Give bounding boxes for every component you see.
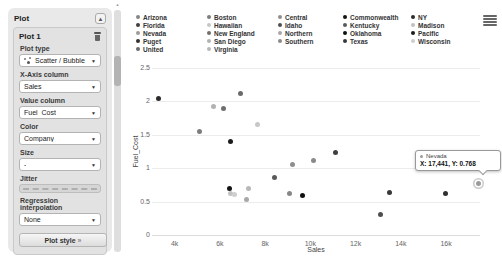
- data-point-Central[interactable]: [290, 162, 295, 167]
- legend-dot: [207, 39, 211, 43]
- legend-item[interactable]: Wisconsin: [411, 37, 450, 45]
- regression-select[interactable]: None ▼: [19, 213, 101, 226]
- legend-item[interactable]: Puget: [136, 37, 167, 45]
- legend-item[interactable]: United: [136, 45, 167, 53]
- data-point-Wisconsin[interactable]: [232, 192, 237, 197]
- legend-label: Idaho: [285, 22, 302, 29]
- plot-style-button[interactable]: Plot style »: [19, 233, 107, 247]
- plot-style-button-label: Plot style: [44, 237, 75, 244]
- legend-item[interactable]: New England: [207, 29, 255, 37]
- legend-dot: [343, 31, 347, 35]
- legend-dot: [411, 15, 415, 19]
- legend-label: Northern: [285, 30, 312, 37]
- data-point-Kentucky[interactable]: [272, 175, 277, 180]
- data-point-Nevada[interactable]: [476, 181, 481, 186]
- data-point-Virginia[interactable]: [246, 186, 251, 191]
- scrollbar-thumb[interactable]: [114, 56, 121, 86]
- data-point-New England[interactable]: [221, 106, 226, 111]
- chart-menu-icon[interactable]: [483, 15, 497, 26]
- size-select[interactable]: - ▼: [19, 158, 101, 171]
- data-point-San Diego[interactable]: [211, 104, 216, 109]
- data-point-United[interactable]: [238, 91, 243, 96]
- legend-dot: [136, 23, 140, 27]
- plot-type-select[interactable]: Scatter / Bubble ▼: [19, 54, 101, 67]
- legend-item[interactable]: Commonwealth: [343, 13, 398, 21]
- legend-item[interactable]: San Diego: [207, 37, 255, 45]
- data-point-Idaho[interactable]: [378, 212, 383, 217]
- legend-item[interactable]: Arizona: [136, 13, 167, 21]
- tooltip-series-label: Nevada: [426, 153, 447, 159]
- data-point-Pacific[interactable]: [228, 139, 233, 144]
- legend-dot: [411, 39, 415, 43]
- collapse-panel-icon[interactable]: ▲: [95, 13, 106, 24]
- legend-label: Arizona: [143, 14, 167, 21]
- legend-item[interactable]: Central: [278, 13, 314, 21]
- jitter-label: Jitter: [20, 175, 100, 182]
- legend-item[interactable]: Oklahoma: [343, 29, 398, 37]
- chevron-down-icon: ▼: [91, 110, 96, 116]
- legend-item[interactable]: Kentucky: [343, 21, 398, 29]
- scrollbar-up-arrow[interactable]: ▲: [114, 2, 121, 7]
- data-point-Hawaiian[interactable]: [255, 122, 260, 127]
- x-tick-label: 10k: [298, 240, 322, 247]
- data-point-Commonwealth[interactable]: [227, 186, 232, 191]
- legend-label: Florida: [143, 22, 165, 29]
- gridline-y-0: [152, 235, 480, 236]
- delete-plot-icon[interactable]: [94, 32, 101, 41]
- tooltip-series-dot: [420, 155, 423, 158]
- legend-item[interactable]: Madison: [411, 21, 450, 29]
- legend-dot: [343, 23, 347, 27]
- legend-item[interactable]: Hawaiian: [207, 21, 255, 29]
- gridline-y-0.5: [152, 202, 480, 203]
- jitter-slider[interactable]: [19, 184, 101, 193]
- data-point-Florida[interactable]: [333, 150, 338, 155]
- data-point-Arizona[interactable]: [287, 191, 292, 196]
- y-tick-label: 1.5: [130, 131, 150, 138]
- data-point-Oklahoma[interactable]: [300, 193, 305, 198]
- legend-item[interactable]: NY: [411, 13, 450, 21]
- legend-item[interactable]: Texas: [343, 37, 398, 45]
- legend-item[interactable]: Florida: [136, 21, 167, 29]
- color-select[interactable]: Company ▼: [19, 132, 101, 145]
- y-tick-label: 2: [130, 97, 150, 104]
- legend-dot: [207, 23, 211, 27]
- color-value: Company: [24, 135, 54, 142]
- legend-label: Kentucky: [350, 22, 379, 29]
- legend-item[interactable]: Virginia: [207, 45, 255, 53]
- data-point-Southern[interactable]: [311, 158, 316, 163]
- legend-item[interactable]: Idaho: [278, 21, 314, 29]
- legend-item[interactable]: Nevada: [136, 29, 167, 37]
- legend-label: Central: [285, 14, 307, 21]
- x-tick-label: 12k: [344, 240, 368, 247]
- regression-label: Regression interpolation: [20, 197, 100, 211]
- xaxis-column-select[interactable]: Sales ▼: [19, 80, 101, 93]
- data-point-Texas[interactable]: [387, 190, 392, 195]
- gridline-y-1.5: [152, 135, 480, 136]
- y-tick-label: 0.5: [130, 198, 150, 205]
- legend-dot: [278, 15, 282, 19]
- value-column-value: Fuel_Cost: [24, 109, 56, 116]
- legend-column: CommonwealthKentuckyOklahomaTexas: [343, 13, 398, 45]
- size-label: Size: [20, 149, 100, 156]
- gridline-y-2.5: [152, 68, 480, 69]
- legend-item[interactable]: Pacific: [411, 29, 450, 37]
- sidebar-scrollbar[interactable]: [114, 10, 121, 252]
- legend-label: Madison: [418, 22, 444, 29]
- y-tick-label: 1: [130, 164, 150, 171]
- legend-label: Nevada: [143, 30, 166, 37]
- data-point-Puget[interactable]: [443, 191, 448, 196]
- legend-item[interactable]: Northern: [278, 29, 314, 37]
- data-point-Boston[interactable]: [197, 129, 202, 134]
- value-column-select[interactable]: Fuel_Cost ▼: [19, 106, 101, 119]
- legend-item[interactable]: Southern: [278, 37, 314, 45]
- legend-column: ArizonaFloridaNevadaPugetUnited: [136, 13, 167, 53]
- plot-type-label: Plot type: [20, 45, 100, 52]
- legend-dot: [278, 31, 282, 35]
- legend-dot: [411, 23, 415, 27]
- plot-name: Plot 1: [19, 32, 41, 41]
- legend-dot: [136, 47, 140, 51]
- legend-item[interactable]: Boston: [207, 13, 255, 21]
- data-point-NY[interactable]: [156, 96, 161, 101]
- xaxis-column-value: Sales: [24, 83, 42, 90]
- chevron-down-icon: ▼: [91, 162, 96, 168]
